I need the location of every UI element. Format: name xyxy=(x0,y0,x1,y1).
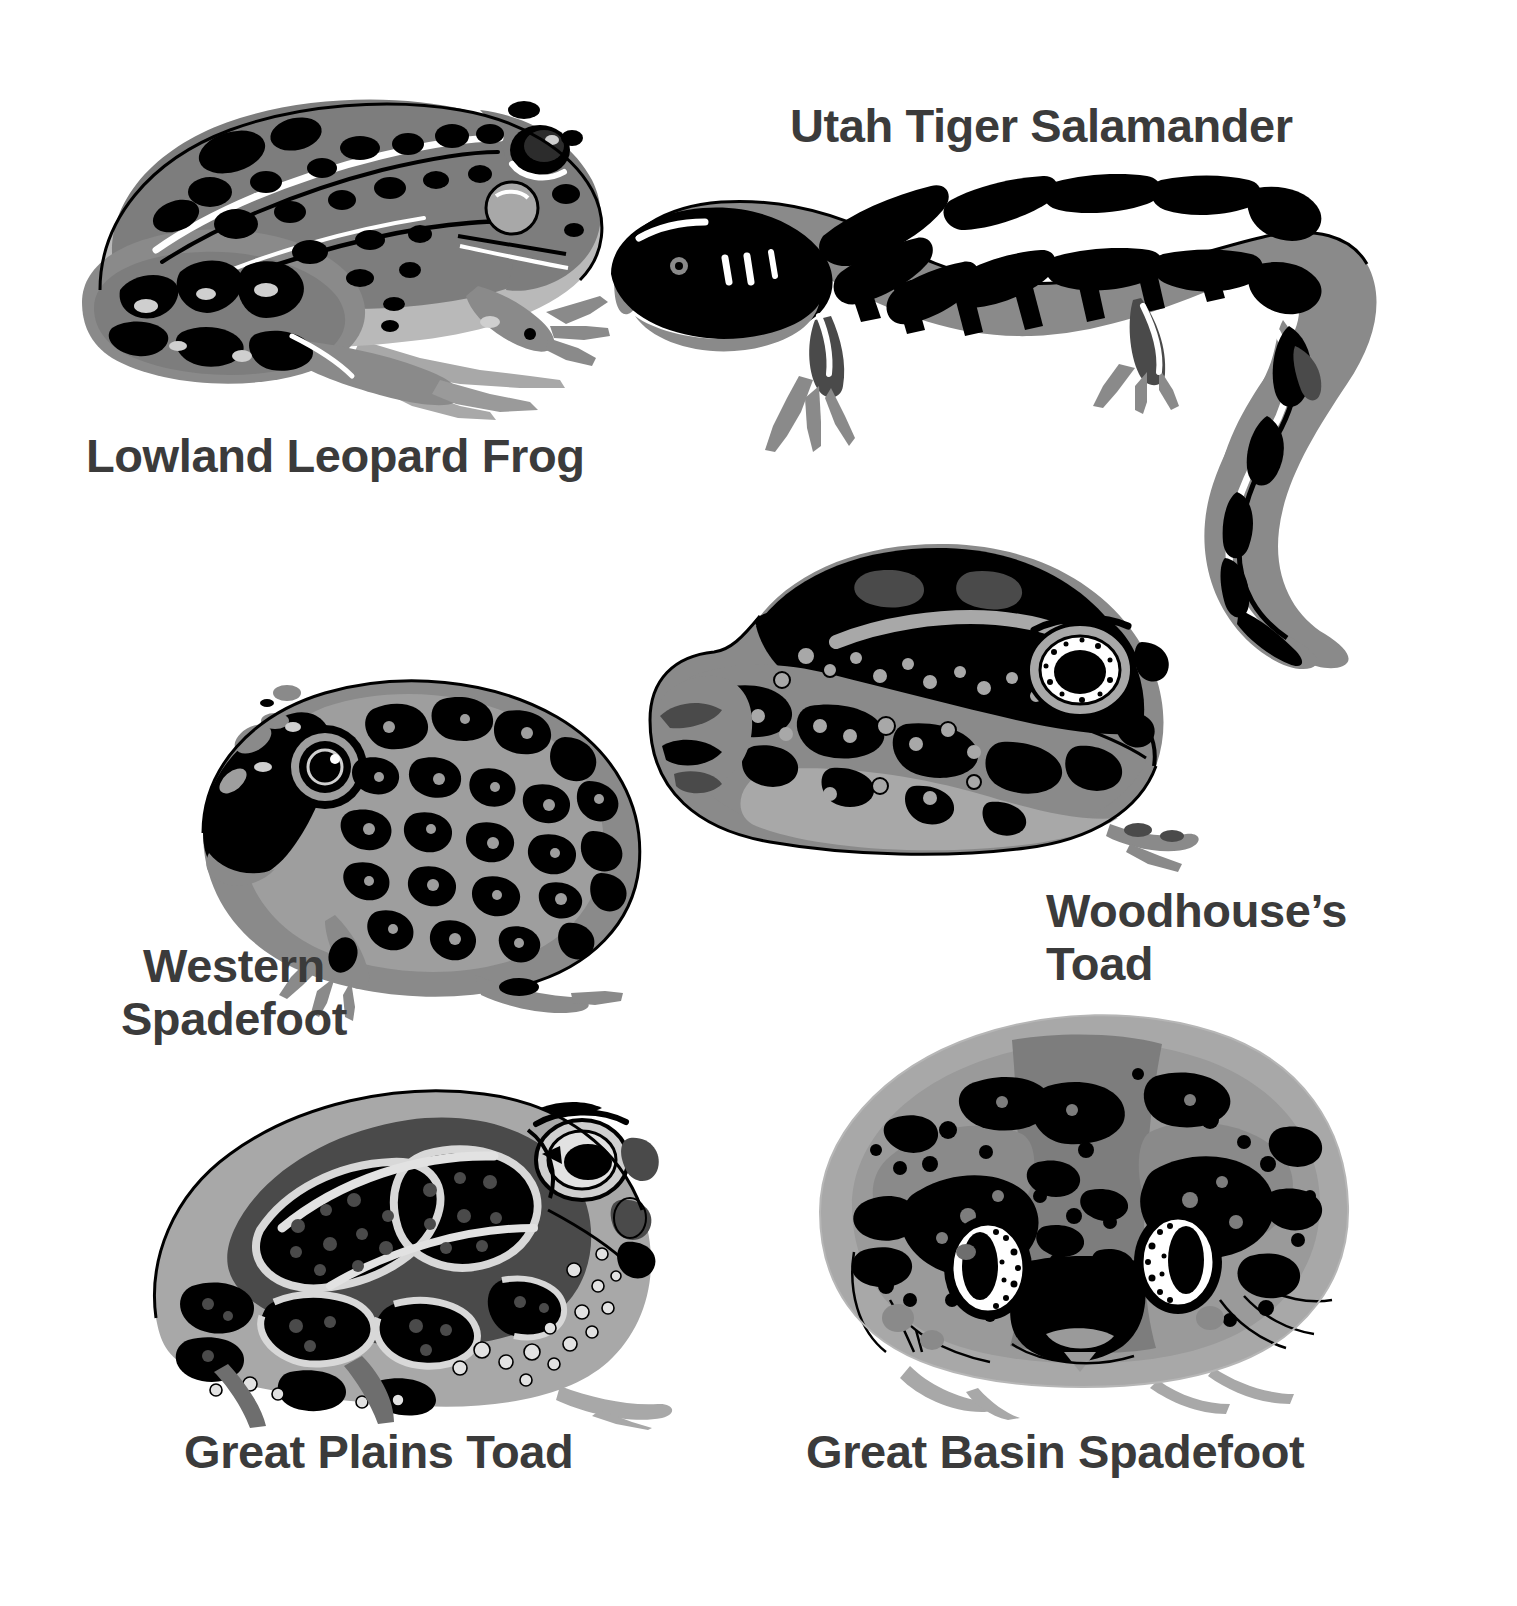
species-label-utah-tiger-salamander: Utah Tiger Salamander xyxy=(790,100,1293,153)
species-label-lowland-leopard-frog: Lowland Leopard Frog xyxy=(86,430,585,483)
species-plate: Lowland Leopard Frog Utah Tiger Salamand… xyxy=(0,0,1517,1606)
illustration-great-basin-spadefoot xyxy=(790,1000,1370,1420)
species-label-great-basin-spadefoot: Great Basin Spadefoot xyxy=(806,1426,1304,1479)
illustration-great-plains-toad xyxy=(130,1050,690,1430)
species-label-woodhouses-toad: Woodhouse’s Toad xyxy=(1046,885,1347,990)
illustration-lowland-leopard-frog xyxy=(60,40,620,440)
species-label-great-plains-toad: Great Plains Toad xyxy=(184,1426,573,1479)
illustration-woodhouses-toad xyxy=(630,530,1210,890)
species-label-western-spadefoot: Western Spadefoot xyxy=(114,940,354,1045)
